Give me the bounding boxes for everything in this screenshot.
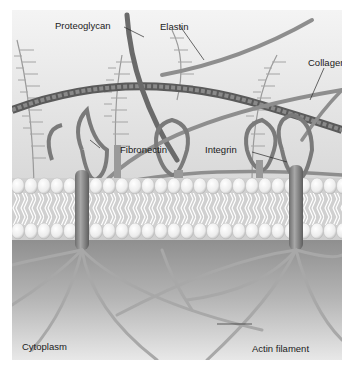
label-actin-filament: Actin filament: [252, 343, 309, 354]
label-collagen: Collagen: [308, 57, 342, 68]
label-integrin: Integrin: [205, 144, 237, 155]
diagram-illustration: [12, 10, 342, 360]
ecm-diagram: Proteoglycan Elastin Collagen Fibronecti…: [12, 10, 342, 360]
label-proteoglycan: Proteoglycan: [55, 20, 110, 31]
label-fibronectin: Fibronectin: [120, 144, 167, 155]
label-cytoplasm: Cytoplasm: [22, 341, 67, 352]
label-elastin: Elastin: [160, 21, 189, 32]
